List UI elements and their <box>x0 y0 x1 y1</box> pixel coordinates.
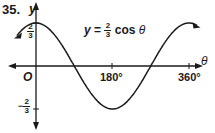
x-tick-label-360: 360° <box>178 72 201 83</box>
y-tick-label-neg: −23 <box>18 98 30 115</box>
y-axis-label: y <box>29 2 36 15</box>
x-axis-left-arrow-icon <box>8 63 16 69</box>
curve-right-arrow-icon <box>193 23 201 29</box>
y-tick-label-pos: 23 <box>27 23 34 40</box>
graph-canvas <box>0 0 215 133</box>
origin-label: O <box>23 71 32 83</box>
equation-label: y = 23 cos θ <box>84 22 145 39</box>
y-axis-down-arrow-icon <box>33 122 39 130</box>
x-axis-label: θ <box>201 55 208 67</box>
x-tick-label-180: 180° <box>100 72 123 83</box>
cosine-graph-figure: 35. y 23 −23 O 180° 360° θ y = 23 cos θ <box>0 0 215 133</box>
problem-number: 35. <box>2 3 20 16</box>
